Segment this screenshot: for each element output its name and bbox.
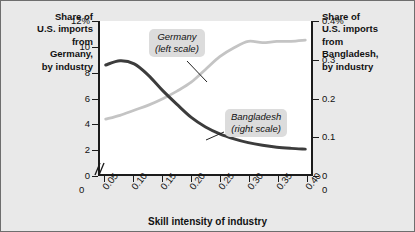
y-left-tick-label: 0 xyxy=(52,170,90,181)
y-left-tick xyxy=(92,176,98,177)
axis-break-icon xyxy=(91,161,109,177)
y-left-tick-label: 2 xyxy=(52,144,90,155)
y-left-tick xyxy=(92,73,98,74)
series-canvas xyxy=(100,21,311,174)
x-axis-title: Skill intensity of industry xyxy=(1,216,414,227)
callout-germany: Germany (left scale) xyxy=(149,29,205,57)
y-left-tick-label: 4 xyxy=(52,118,90,129)
y-right-tick xyxy=(313,99,319,100)
y-right-tick xyxy=(313,137,319,138)
y-left-tick-label: 10 xyxy=(52,41,90,52)
y-left-tick xyxy=(92,124,98,125)
y-right-tick-label: 0.3 xyxy=(322,54,335,65)
y-right-tick-label: 0 xyxy=(322,170,327,181)
x-axis-zero-left: 0 xyxy=(79,184,84,195)
y-left-tick-label: 8 xyxy=(52,67,90,78)
series-line xyxy=(106,40,306,119)
y-right-tick xyxy=(313,21,319,22)
callout-bangladesh: Bangladesh (right scale) xyxy=(225,109,287,137)
y-left-tick xyxy=(92,99,98,100)
y-right-tick-label: 0.1 xyxy=(322,131,335,142)
y-right-tick-label: 0.4% xyxy=(322,15,344,26)
y-right-tick-label: 0.2 xyxy=(322,93,335,104)
y-left-tick xyxy=(92,150,98,151)
x-axis-zero-right: 0 xyxy=(322,184,327,195)
chart-figure: Share of U.S. imports from Germany, by i… xyxy=(1,1,414,231)
y-left-tick xyxy=(92,21,98,22)
y-right-tick xyxy=(313,60,319,61)
plot-area xyxy=(98,21,313,176)
y-left-tick-label: 12% xyxy=(52,15,90,26)
y-left-tick xyxy=(92,47,98,48)
y-left-tick-label: 6 xyxy=(52,93,90,104)
